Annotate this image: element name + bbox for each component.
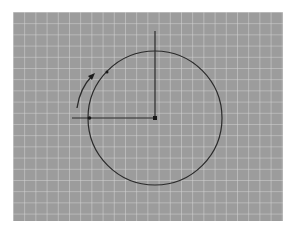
center-point: [153, 116, 157, 120]
circle-point-left: [88, 116, 92, 120]
grid-background: [13, 12, 283, 221]
rotation-diagram: [0, 0, 289, 231]
circle-point-upper: [106, 71, 109, 74]
